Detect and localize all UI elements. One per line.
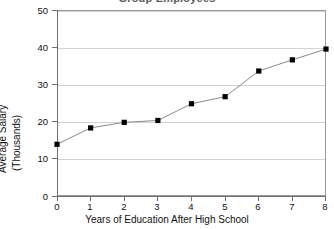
data-point-7 bbox=[290, 57, 295, 62]
data-series-layer bbox=[0, 0, 334, 229]
salary-vs-education-line-chart: Group Employees Average Salary (Thousand… bbox=[0, 0, 334, 229]
data-point-2 bbox=[122, 120, 127, 125]
series-line bbox=[57, 49, 326, 144]
data-point-5 bbox=[223, 94, 228, 99]
data-point-8 bbox=[323, 46, 328, 51]
data-point-6 bbox=[256, 68, 261, 73]
data-point-0 bbox=[54, 142, 59, 147]
data-point-4 bbox=[189, 101, 194, 106]
data-point-3 bbox=[155, 118, 160, 123]
data-point-1 bbox=[88, 125, 93, 130]
